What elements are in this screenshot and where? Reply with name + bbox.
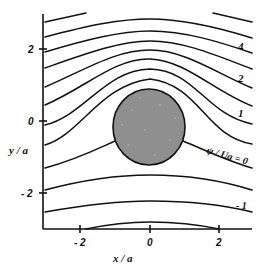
streamline <box>45 175 252 190</box>
x-tick-label-neg2: - 2 <box>74 237 86 248</box>
streamline-label-2: 2 <box>237 72 244 84</box>
streamline-label-1: 1 <box>238 107 244 119</box>
x-axis-label: x / a <box>112 252 133 264</box>
y-axis-label: y / a <box>7 144 28 156</box>
streamline-psi-0-left <box>45 141 115 168</box>
streamline <box>45 13 86 22</box>
streamline-label-4: 4 <box>237 40 244 52</box>
y-tick-label-0: 0 <box>28 116 34 127</box>
streamline-label-0: ψ / Ua = 0 <box>205 144 249 166</box>
streamline <box>45 19 252 38</box>
streamline <box>45 201 252 212</box>
y-tick-label-2: 2 <box>27 44 34 55</box>
streamline <box>45 41 252 69</box>
x-tick-label-2: 2 <box>215 237 222 248</box>
streamline-plot: 2 0 - 2 - 2 0 2 y / a x / a 4 2 1 ψ / Ua… <box>0 0 266 274</box>
streamline <box>86 222 219 229</box>
x-tick-label-0: 0 <box>147 237 153 248</box>
y-tick-label-neg2: - 2 <box>21 188 33 199</box>
cylinder <box>113 89 185 165</box>
streamline <box>213 13 252 22</box>
streamline-label-neg1: - 1 <box>236 200 247 211</box>
